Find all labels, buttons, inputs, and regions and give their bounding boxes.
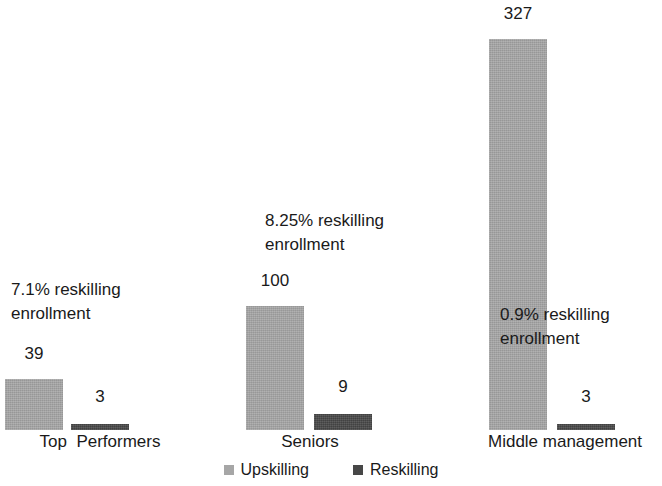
- bar-reskilling-top-performers[interactable]: [71, 424, 129, 430]
- legend-item-upskilling[interactable]: Upskilling: [224, 461, 309, 479]
- category-label-seniors: Seniors: [240, 431, 380, 453]
- category-label-middle-management: Middle management: [470, 431, 660, 453]
- legend-label-upskilling: Upskilling: [241, 461, 309, 479]
- bar-upskilling-seniors[interactable]: [246, 306, 304, 430]
- bar-reskilling-seniors[interactable]: [314, 414, 372, 430]
- legend-swatch-reskilling-icon: [353, 465, 363, 475]
- chart-legend: Upskilling Reskilling: [0, 461, 662, 479]
- annotation-middle-management: 0.9% reskilling enrollment: [500, 303, 610, 351]
- bar-upskilling-top-performers[interactable]: [5, 379, 63, 430]
- annotation-seniors-line2: enrollment: [265, 233, 384, 257]
- annotation-middle-management-line1: 0.9% reskilling: [500, 303, 610, 327]
- annotation-top-performers-line1: 7.1% reskilling: [11, 278, 121, 302]
- plot-area: 39 3 7.1% reskilling enrollment 100 9 8.…: [0, 0, 662, 430]
- value-label-reskilling-top-performers: 3: [71, 388, 129, 406]
- legend-label-reskilling: Reskilling: [370, 461, 438, 479]
- value-label-upskilling-middle-management: 327: [489, 5, 547, 23]
- annotation-middle-management-line2: enrollment: [500, 327, 610, 351]
- bar-chart: 39 3 7.1% reskilling enrollment 100 9 8.…: [0, 0, 662, 486]
- legend-item-reskilling[interactable]: Reskilling: [353, 461, 438, 479]
- annotation-top-performers-line2: enrollment: [11, 302, 121, 326]
- legend-swatch-upskilling-icon: [224, 465, 234, 475]
- value-label-reskilling-middle-management: 3: [557, 388, 615, 406]
- annotation-seniors-line1: 8.25% reskilling: [265, 209, 384, 233]
- value-label-reskilling-seniors: 9: [314, 378, 372, 396]
- category-label-top-performers: Top Performers: [0, 431, 200, 453]
- value-label-upskilling-top-performers: 39: [5, 345, 63, 363]
- annotation-seniors: 8.25% reskilling enrollment: [265, 209, 384, 257]
- value-label-upskilling-seniors: 100: [246, 272, 304, 290]
- bar-reskilling-middle-management[interactable]: [557, 424, 615, 430]
- annotation-top-performers: 7.1% reskilling enrollment: [11, 278, 121, 326]
- bar-upskilling-middle-management[interactable]: [489, 39, 547, 430]
